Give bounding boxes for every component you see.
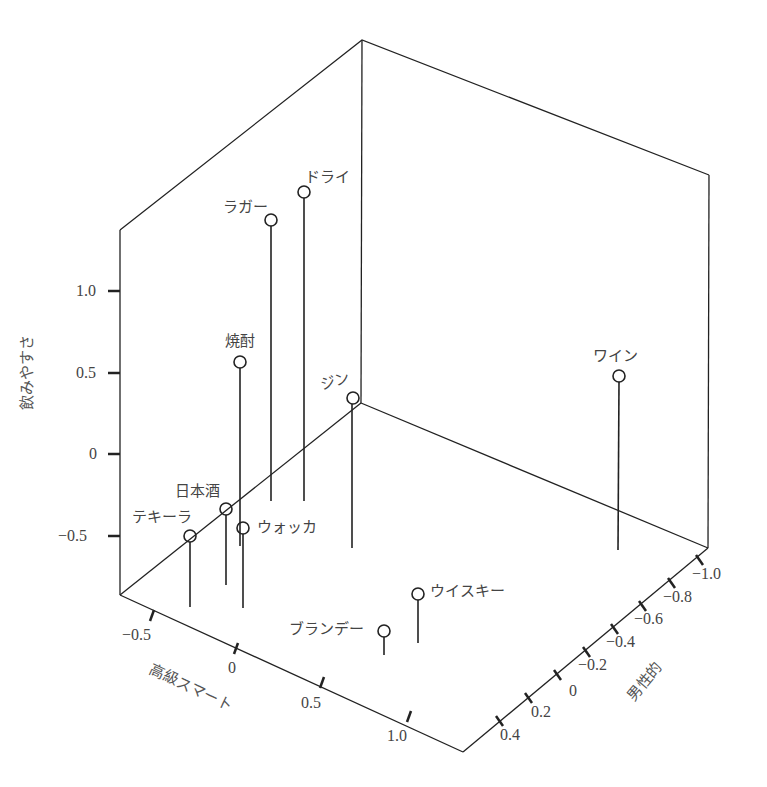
point-whisky [412, 588, 424, 643]
y-tick-minus-0.2: −0.2 [578, 657, 607, 673]
z-axis-title: 飲みやすさ [20, 335, 35, 410]
z-tick-0: 0 [89, 446, 97, 462]
label-brandy: ブランデー [289, 622, 364, 637]
label-whisky: ウイスキー [430, 584, 505, 599]
point-dry [298, 186, 310, 501]
y-axis-ticks [496, 555, 703, 726]
label-dry: ドライ [305, 170, 350, 185]
point-lager [265, 214, 277, 501]
x-tick-1.0: 1.0 [387, 728, 407, 744]
point-brandy [378, 625, 390, 655]
y-tick-minus-1.0: −1.0 [692, 566, 721, 582]
y-tick-minus-0.4: −0.4 [606, 634, 635, 650]
point-shochu [234, 356, 246, 546]
point-tequila [184, 530, 196, 607]
z-tick-1.0: 1.0 [76, 283, 96, 299]
point-vodka [237, 522, 249, 608]
y-tick-0.2: 0.2 [531, 704, 551, 720]
label-vodka: ウォッカ [257, 520, 317, 535]
z-axis-ticks [108, 291, 120, 536]
y-tick-0: 0 [569, 683, 577, 699]
label-tequila: テキーラ [132, 510, 192, 525]
label-wine: ワイン [593, 349, 638, 364]
x-tick-0.5: 0.5 [301, 695, 321, 711]
z-tick-0.5: 0.5 [76, 365, 96, 381]
y-tick-minus-0.6: −0.6 [634, 611, 663, 627]
z-tick-minus-0.5: −0.5 [58, 528, 87, 544]
y-tick-minus-0.8: −0.8 [663, 589, 692, 605]
y-tick-0.4: 0.4 [500, 727, 520, 743]
label-lager: ラガー [223, 200, 268, 215]
label-sake: 日本酒 [175, 484, 220, 499]
x-tick-0: 0 [228, 660, 236, 676]
point-wine [613, 370, 625, 550]
point-gin [347, 392, 359, 548]
point-sake [220, 503, 232, 585]
x-tick-minus-0.5: −0.5 [122, 627, 151, 643]
label-shochu: 焼酎 [225, 334, 255, 349]
